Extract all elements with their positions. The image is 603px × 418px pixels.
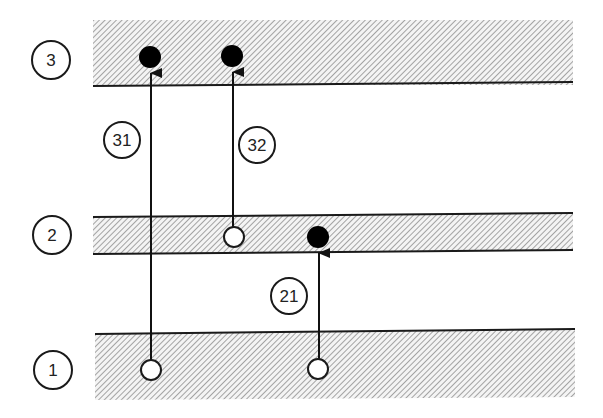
svg-text:32: 32 [248,136,267,155]
level-label-2: 2 [33,216,71,254]
filled-state-dot [221,45,243,67]
svg-text:2: 2 [47,226,56,245]
level-1-band [95,329,575,400]
level-3-band [93,20,573,86]
transition-label-21: 21 [271,278,307,314]
level-label-3: 3 [32,41,70,79]
svg-text:3: 3 [46,51,55,70]
svg-text:1: 1 [48,361,57,380]
svg-text:31: 31 [113,131,132,150]
level-2-band [93,213,573,254]
open-state-dot [141,360,161,380]
filled-state-dot [307,226,329,248]
transition-diagram: 3 2 1 31 32 21 [0,0,603,418]
level-label-1: 1 [34,351,72,389]
open-state-dot [308,359,328,379]
filled-state-dot [139,46,161,68]
open-state-dot [224,227,244,247]
transition-label-32: 32 [239,127,275,163]
transition-label-31: 31 [104,122,140,158]
svg-text:21: 21 [280,287,299,306]
